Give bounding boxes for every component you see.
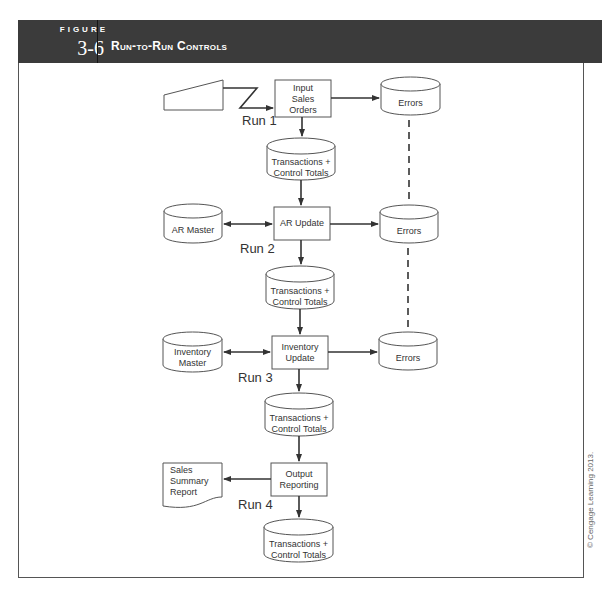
line: Inventory [272, 342, 328, 353]
run-label-2: Run 2 [240, 241, 275, 256]
node-run3-errors: Errors [379, 353, 437, 364]
node-run2-errors: Errors [380, 226, 438, 237]
node-run1-transactions: Transactions + Control Totals [267, 157, 335, 179]
line: Input [275, 83, 331, 94]
node-run3-transactions: Transactions + Control Totals [265, 413, 333, 435]
node-inventory-master: Inventory Master [163, 347, 222, 369]
line: Control Totals [265, 424, 333, 435]
node-run4-process: Output Reporting [271, 469, 327, 491]
node-run1-process: Input Sales Orders [275, 83, 331, 116]
line: Inventory [163, 347, 222, 358]
line: Sales [275, 94, 331, 105]
line: Transactions + [264, 539, 333, 550]
node-run1-errors: Errors [381, 98, 440, 109]
line: Transactions + [266, 286, 334, 297]
line: Sales [170, 465, 220, 476]
line: Control Totals [264, 550, 333, 561]
line: Update [272, 353, 328, 364]
line: Reporting [271, 480, 327, 491]
line: Control Totals [266, 297, 334, 308]
line: Summary [170, 476, 220, 487]
run-label-1: Run 1 [242, 113, 277, 128]
manual-input-shape [164, 80, 223, 110]
line: Transactions + [265, 413, 333, 424]
node-sales-report: Sales Summary Report [170, 465, 220, 498]
line: Master [163, 358, 222, 369]
line: Report [170, 487, 220, 498]
node-run3-process: Inventory Update [272, 342, 328, 364]
node-ar-master: AR Master [164, 225, 222, 236]
run-label-4: Run 4 [238, 497, 273, 512]
run-label-3: Run 3 [238, 370, 273, 385]
line: Transactions + [267, 157, 335, 168]
line: Output [271, 469, 327, 480]
node-run4-transactions: Transactions + Control Totals [264, 539, 333, 561]
node-run2-transactions: Transactions + Control Totals [266, 286, 334, 308]
line: Control Totals [267, 168, 335, 179]
line: Orders [275, 105, 331, 116]
node-run2-process: AR Update [274, 218, 330, 229]
